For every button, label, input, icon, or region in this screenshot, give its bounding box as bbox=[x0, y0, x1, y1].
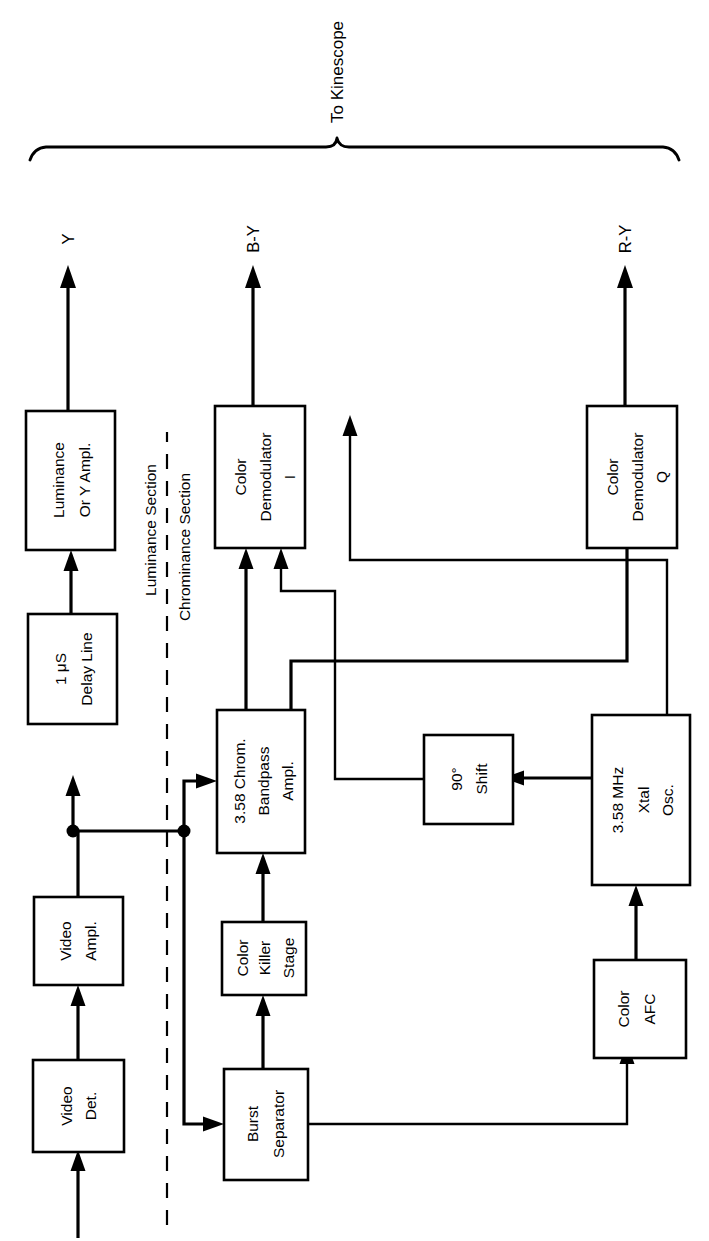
block-bandpass-label-line3: Ampl. bbox=[279, 761, 296, 801]
block-video-detector: Video Det. bbox=[33, 1060, 124, 1152]
block-bandpass-amplifier: 3.58 Chrom. Bandpass Ampl. bbox=[217, 710, 305, 853]
block-demod-i-label-line3: I bbox=[281, 475, 298, 479]
block-video-detector-label-line1: Video bbox=[58, 1086, 75, 1125]
block-delay-line: 1 μS Delay Line bbox=[28, 614, 117, 724]
block-demod-q-label-line2: Demodulator bbox=[629, 433, 646, 522]
block-video-amplifier: Video Ampl. bbox=[34, 897, 123, 985]
block-burst-separator-label-line2: Separator bbox=[270, 1090, 287, 1158]
block-delay-line-label-line1: 1 μS bbox=[52, 653, 69, 685]
block-color-demodulator-i: Color Demodulator I bbox=[215, 406, 305, 548]
block-bandpass-label-line2: Bandpass bbox=[255, 746, 272, 815]
block-diagram-figure: Video Det. Video Ampl. 1 μS Delay Line bbox=[0, 0, 709, 1241]
signal-label-y: Y bbox=[59, 233, 77, 244]
block-xtal-label-line2: Xtal bbox=[635, 787, 652, 814]
section-label-chrominance: Chrominance Section bbox=[176, 473, 193, 621]
block-color-killer-label-line3: Stage bbox=[280, 938, 297, 979]
block-burst-separator-label-line1: Burst bbox=[244, 1105, 261, 1142]
block-video-amplifier-label-line1: Video bbox=[57, 921, 74, 960]
block-luminance-amplifier-label-line2: Or Y Ampl. bbox=[76, 443, 93, 517]
block-color-killer-label-line2: Killer bbox=[256, 941, 273, 975]
block-90-degree-shift: 90° Shift bbox=[424, 735, 513, 824]
block-color-afc: Color AFC bbox=[594, 960, 686, 1058]
block-demod-q-label-line3: Q bbox=[653, 471, 670, 483]
block-color-demodulator-q: Color Demodulator Q bbox=[587, 406, 677, 548]
block-luminance-amplifier-label-line1: Luminance bbox=[50, 442, 67, 518]
signal-label-ry: R-Y bbox=[616, 225, 634, 253]
block-video-detector-label-line2: Det. bbox=[82, 1092, 99, 1120]
diagram-canvas: Video Det. Video Ampl. 1 μS Delay Line bbox=[0, 0, 709, 1241]
block-demod-i-label-line1: Color bbox=[232, 458, 249, 495]
block-delay-line-label-line2: Delay Line bbox=[78, 632, 95, 705]
block-luminance-amplifier: Luminance Or Y Ampl. bbox=[26, 411, 115, 550]
block-color-killer-label-line1: Color bbox=[234, 939, 251, 976]
block-demod-q-label-line1: Color bbox=[604, 458, 621, 495]
to-kinescope-label: To Kinescope bbox=[328, 21, 347, 123]
block-bandpass-label-line1: 3.58 Chrom. bbox=[231, 738, 248, 823]
section-label-luminance: Luminance Section bbox=[142, 464, 159, 596]
block-xtal-oscillator: 3.58 MHz Xtal Osc. bbox=[592, 715, 690, 885]
block-color-afc-label-line1: Color bbox=[615, 990, 632, 1027]
block-video-amplifier-label-line2: Ampl. bbox=[82, 921, 99, 961]
block-burst-separator: Burst Separator bbox=[224, 1069, 308, 1180]
signal-label-by: B-Y bbox=[244, 225, 262, 253]
block-color-afc-label-line2: AFC bbox=[641, 994, 658, 1025]
block-90shift-label-line1: 90° bbox=[448, 767, 465, 790]
block-demod-i-label-line2: Demodulator bbox=[257, 433, 274, 522]
block-xtal-label-line3: Osc. bbox=[659, 784, 676, 816]
block-xtal-label-line1: 3.58 MHz bbox=[609, 767, 626, 833]
block-color-killer-stage: Color Killer Stage bbox=[222, 922, 306, 995]
block-90shift-label-line2: Shift bbox=[473, 763, 490, 795]
